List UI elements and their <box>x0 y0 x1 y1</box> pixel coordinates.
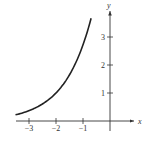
exponential-curve <box>16 18 92 115</box>
x-tick-label: −2 <box>52 124 61 133</box>
x-tick-label: −1 <box>79 124 88 133</box>
y-tick-label: 2 <box>101 61 105 70</box>
chart: −3−2−1 123 x y <box>0 0 151 142</box>
y-tick-label: 1 <box>101 89 105 98</box>
x-tick-label: −3 <box>25 124 34 133</box>
y-ticks: 123 <box>101 33 113 98</box>
y-tick-label: 3 <box>101 33 105 42</box>
x-axis-label: x <box>137 117 142 126</box>
y-axis-label: y <box>106 1 111 10</box>
x-ticks: −3−2−1 <box>25 118 88 133</box>
